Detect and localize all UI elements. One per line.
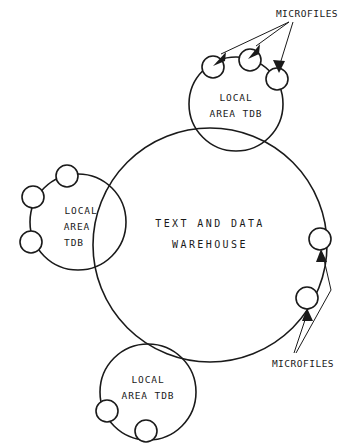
local-area-tdb-left-label-line1: LOCAL [64,205,97,216]
microfile-node-left-3 [20,231,42,253]
leader-line-top-2 [256,22,289,46]
leader-line-top-1 [221,22,289,54]
local-area-tdb-top-label-line2: AREA TDB [210,108,263,119]
leader-line-top-3 [280,22,293,64]
warehouse-label-line2: WAREHOUSE [172,239,248,250]
microfile-node-bottom-2 [135,420,157,442]
local-area-tdb-bottom-label-line2: AREA TDB [122,390,175,401]
microfile-node-left-1 [56,165,78,187]
microfiles-label-top: MICROFILES [276,8,338,19]
microfile-node-bottom-1 [96,400,118,422]
microfiles-label-bottom: MICROFILES [272,358,334,369]
microfile-node-left-2 [22,186,44,208]
microfile-node-top-3 [266,68,288,90]
local-area-tdb-left-label-line3: TDB [64,237,84,248]
warehouse-microfile-upper [309,228,331,250]
warehouse-microfile-lower [296,287,318,309]
diagram-canvas: TEXT AND DATA WAREHOUSE LOCAL AREA TDB L… [0,0,359,445]
local-area-tdb-left-label-line2: AREA [64,221,90,232]
warehouse-topology-diagram: TEXT AND DATA WAREHOUSE LOCAL AREA TDB L… [0,0,359,445]
local-area-tdb-bottom-label-line1: LOCAL [131,374,164,385]
warehouse-label-line1: TEXT AND DATA [155,218,264,229]
local-area-tdb-top-label-line1: LOCAL [219,92,252,103]
arrow-head-bottom-1 [316,249,327,262]
